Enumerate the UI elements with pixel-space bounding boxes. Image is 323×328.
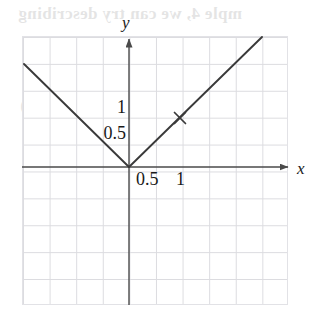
x-tick-label-1: 1 [176,170,185,188]
x-axis-label: x [297,160,305,177]
x-tick-label-0.5: 0.5 [136,170,159,188]
figure-container: mple 4, we can try describing here is a … [0,0,323,328]
y-tick-label-1: 1 [108,98,126,116]
point-marker-icon [175,113,186,124]
y-axis-label: y [122,14,130,31]
plot-svg [0,0,323,328]
y-tick-label-0.5: 0.5 [97,124,126,142]
curve-right-branch [129,37,262,167]
